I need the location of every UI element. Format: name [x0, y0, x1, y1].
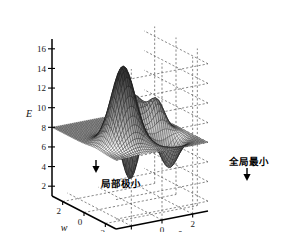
z-tick-label: -2 [128, 231, 136, 233]
figure-3d-surface-plot: 246810121416E20-2w-202θ 局部极小全局最小 E w θ 局… [0, 0, 308, 232]
annotation-local-minimum-label: 局部极小 [101, 178, 141, 189]
y-axis-title: E [25, 108, 32, 119]
y-tick-label: 2 [42, 181, 47, 191]
y-tick-label: 4 [42, 162, 47, 172]
x-tick-label: 2 [56, 206, 61, 216]
x-tick-label: 0 [78, 217, 83, 227]
x-axis-title: w [61, 222, 68, 232]
z-tick-label: 0 [160, 225, 165, 233]
annotation-global-minimum-label: 全局最小 [228, 156, 269, 167]
z-axis-title: θ [177, 229, 182, 232]
x-tick-label: -2 [98, 228, 106, 233]
plot-canvas: 246810121416E20-2w-202θ 局部极小全局最小 [0, 0, 308, 232]
y-tick-label: 6 [42, 142, 47, 152]
y-tick-label: 10 [37, 103, 47, 113]
z-tick-label: 2 [190, 219, 195, 229]
y-tick-label: 8 [42, 123, 47, 133]
y-tick-label: 12 [37, 83, 46, 93]
y-tick-label: 16 [37, 44, 47, 54]
y-tick-label: 14 [37, 64, 47, 74]
